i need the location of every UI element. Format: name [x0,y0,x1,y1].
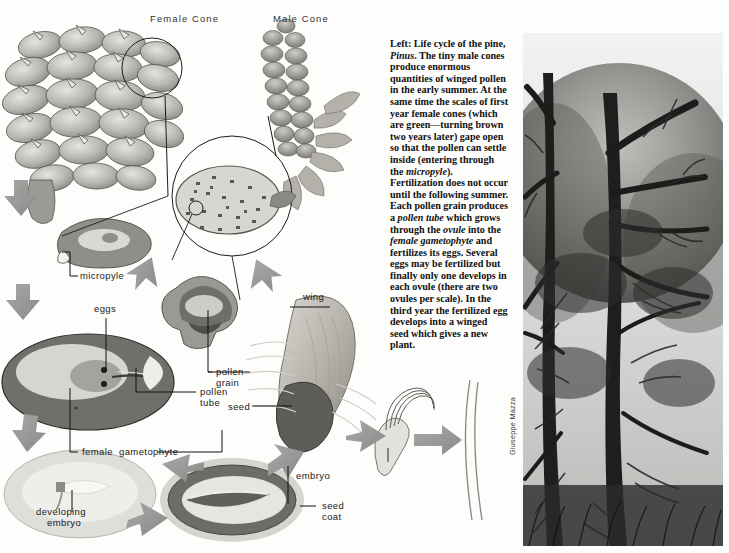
plate-root: Female Cone Male Cone micropyle eggs pol… [0,0,729,553]
pine-forest-photo [523,33,723,546]
heading-female-cone: Female Cone [150,13,219,24]
label-female-gametophyte: female gametophyte [82,446,178,457]
pollen-sac-detail [172,166,296,260]
male-cone-illustration [261,19,360,210]
label-seed: seed [228,401,250,412]
caption-block: Left: Life cycle of the pine, Pinus. The… [390,38,508,351]
seedling-stem [465,380,482,520]
label-wing: wing [303,291,324,302]
egg-cell-lower [101,381,107,387]
photo-credit: Giuseppe Mazza [508,397,517,455]
label-developing-embryo: developing embryo [36,506,86,528]
germinating-seedling-illustration [375,388,434,475]
label-pollen-tube: pollen tube [200,386,228,408]
caption-text: Left: Life cycle of the pine, Pinus. The… [390,38,508,350]
heading-male-cone: Male Cone [273,13,329,24]
ovule-micropyle-detail [58,219,152,268]
label-pollen-grain: pollen grain [216,366,244,388]
label-embryo: embryo [296,470,330,481]
winged-seed-illustration [244,296,376,452]
fertilization-ovule-detail [162,276,238,348]
label-eggs: eggs [94,303,116,314]
label-micropyle: micropyle [80,270,124,281]
label-seed-coat: seed coat [322,500,344,522]
female-cone-illustration [0,25,187,224]
